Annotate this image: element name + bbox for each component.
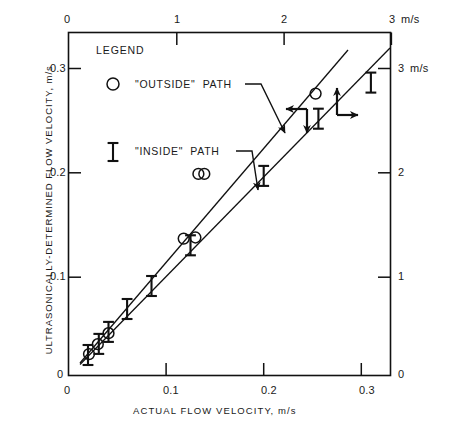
- axis-ticks: [69, 33, 392, 376]
- inside-path-callout-leader: [236, 151, 258, 190]
- data-point: [366, 73, 377, 93]
- legend-marker-inside-errorbar: [108, 143, 119, 161]
- outside-path-callout-leader: [245, 84, 285, 133]
- chart-figure: ULTRASONICALLY-DETERMINED FLOW VELOCITY,…: [0, 0, 451, 438]
- data-point: [258, 166, 269, 186]
- outside-path-fit-line: [80, 50, 348, 363]
- data-point: [122, 299, 133, 319]
- data-point: [310, 88, 321, 99]
- data-point: [190, 232, 201, 243]
- outside-line-crosshair-annotation: [286, 109, 307, 133]
- inside-path-data-points: [83, 73, 377, 365]
- legend-marker-outside-circle: [107, 78, 119, 90]
- data-point: [146, 276, 157, 296]
- plot-frame: [69, 33, 391, 376]
- plot-canvas: [0, 0, 451, 438]
- outside-path-data-points: [84, 88, 321, 359]
